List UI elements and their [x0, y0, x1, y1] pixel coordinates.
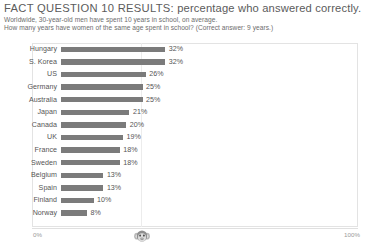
table-row: Belgium13%: [0, 169, 366, 182]
bar: [61, 59, 165, 64]
axis-tick-min: 0%: [33, 231, 42, 238]
bar: [61, 210, 87, 215]
bar-value-label: 25%: [146, 96, 160, 104]
bar: [61, 47, 165, 52]
table-row: UK19%: [0, 131, 366, 144]
bar-track: 25%: [61, 81, 366, 94]
bar-track: 32%: [61, 56, 366, 69]
chart-header: FACT QUESTION 10 RESULTS: percentage who…: [0, 0, 366, 33]
bar-category-label: Norway: [0, 209, 61, 217]
bar-chart-plot: Hungary32%S. Korea32%US26%Germany25%Aust…: [0, 43, 366, 227]
bar-category-label: Spain: [0, 184, 61, 192]
bar: [61, 72, 146, 77]
table-row: Germany25%: [0, 81, 366, 94]
bar-value-label: 18%: [123, 146, 137, 154]
bar-value-label: 10%: [97, 196, 111, 204]
table-row: Norway8%: [0, 207, 366, 220]
bar: [61, 122, 126, 127]
bar-category-label: S. Korea: [0, 58, 61, 66]
bar-track: 18%: [61, 156, 366, 169]
bar: [61, 160, 120, 165]
bar: [61, 147, 120, 152]
bar-track: 20%: [61, 119, 366, 132]
bar-track: 32%: [61, 43, 366, 56]
table-row: Sweden18%: [0, 156, 366, 169]
bar-category-label: Germany: [0, 83, 61, 91]
bar-category-label: Canada: [0, 121, 61, 129]
bar-category-label: France: [0, 146, 61, 154]
page-title: FACT QUESTION 10 RESULTS: percentage who…: [4, 2, 362, 15]
bar-track: 21%: [61, 106, 366, 119]
page-title-rest: percentage who answered correctly.: [174, 2, 361, 14]
bar-category-label: Australia: [0, 96, 61, 104]
bar-value-label: 21%: [133, 108, 147, 116]
bar-value-label: 13%: [107, 184, 121, 192]
subtitle-line-2: How many years have women of the same ag…: [4, 24, 362, 32]
table-row: US26%: [0, 68, 366, 81]
bar-category-label: Sweden: [0, 159, 61, 167]
bar-value-label: 25%: [146, 83, 160, 91]
bar-category-label: Hungary: [0, 45, 61, 53]
bar-track: 19%: [61, 131, 366, 144]
bar-track: 25%: [61, 93, 366, 106]
table-row: Canada20%: [0, 119, 366, 132]
bar-track: 18%: [61, 144, 366, 157]
bar-value-label: 26%: [149, 70, 163, 78]
bar: [61, 97, 143, 102]
bar-value-label: 20%: [130, 121, 144, 129]
bar-category-label: UK: [0, 133, 61, 141]
bar-value-label: 32%: [169, 58, 183, 66]
axis-line: [32, 228, 358, 229]
bar-track: 13%: [61, 169, 366, 182]
subtitle-line-1: Worldwide, 30-year-old men have spent 10…: [4, 16, 362, 24]
bar-category-label: US: [0, 70, 61, 78]
bar-category-label: Finland: [0, 196, 61, 204]
bar-track: 13%: [61, 182, 366, 195]
bar: [61, 110, 129, 115]
table-row: Spain13%: [0, 182, 366, 195]
bar: [61, 135, 123, 140]
table-row: France18%: [0, 144, 366, 157]
bar-value-label: 32%: [169, 45, 183, 53]
bar: [61, 173, 103, 178]
table-row: S. Korea32%: [0, 56, 366, 69]
axis-tick-max: 100%: [344, 231, 360, 238]
chimpanzee-icon: [133, 229, 151, 244]
bar: [61, 198, 94, 203]
table-row: Japan21%: [0, 106, 366, 119]
bar-track: 26%: [61, 68, 366, 81]
bar-value-label: 18%: [123, 159, 137, 167]
table-row: Australia25%: [0, 93, 366, 106]
page-title-lead: FACT QUESTION 10 RESULTS:: [4, 2, 174, 14]
bar-value-label: 19%: [126, 133, 140, 141]
table-row: Hungary32%: [0, 43, 366, 56]
bar-category-label: Belgium: [0, 171, 61, 179]
bar-value-label: 8%: [91, 209, 101, 217]
bar-track: 10%: [61, 194, 366, 207]
bar-value-label: 13%: [107, 171, 121, 179]
bar: [61, 84, 143, 89]
bar-track: 8%: [61, 207, 366, 220]
subtitle-block: Worldwide, 30-year-old men have spent 10…: [4, 16, 362, 33]
x-axis: 0% 100%: [0, 228, 366, 248]
bar-category-label: Japan: [0, 108, 61, 116]
bar: [61, 185, 103, 190]
table-row: Finland10%: [0, 194, 366, 207]
